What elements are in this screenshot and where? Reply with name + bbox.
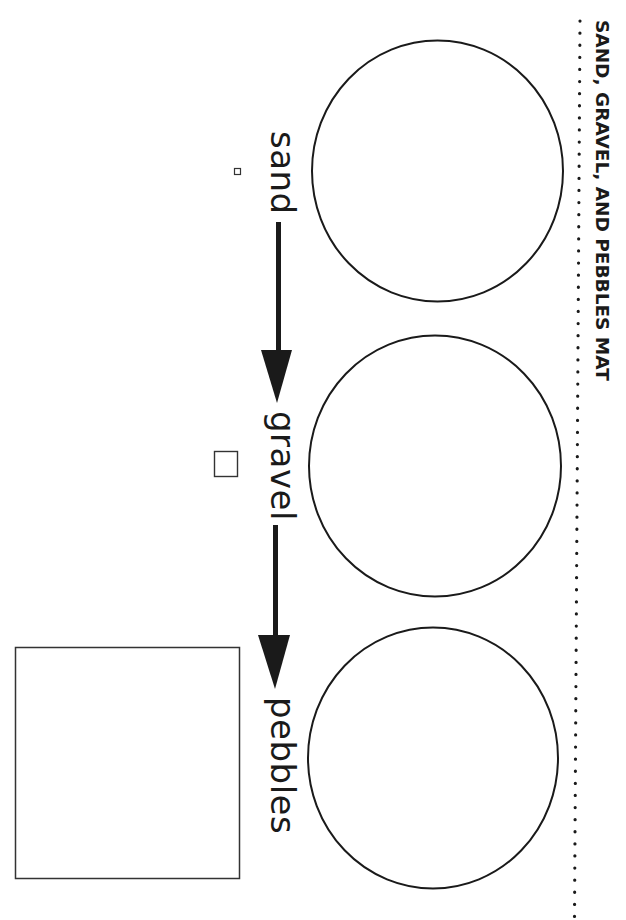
worksheet-page: SAND, GRAVEL, AND PEBBLES MAT sand grave… xyxy=(0,0,626,920)
page-title: SAND, GRAVEL, AND PEBBLES MAT xyxy=(593,20,612,381)
label-sand: sand xyxy=(266,131,300,215)
gravel-size-square xyxy=(215,452,238,477)
dotted-cut-line xyxy=(575,21,581,918)
worksheet-graphics xyxy=(0,0,626,920)
gravel-sorting-circle xyxy=(309,336,561,597)
sand-size-square xyxy=(235,169,241,175)
sand-sorting-circle xyxy=(312,41,563,302)
arrow-sand-to-gravel-icon xyxy=(261,222,292,403)
pebbles-size-square xyxy=(16,648,240,879)
label-pebbles: pebbles xyxy=(266,697,300,834)
label-gravel: gravel xyxy=(266,411,300,521)
arrow-gravel-to-pebbles-icon xyxy=(258,525,290,689)
pebbles-sorting-circle xyxy=(308,628,558,889)
